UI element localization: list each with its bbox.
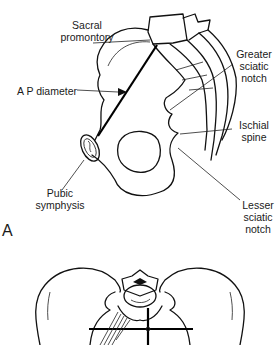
label-sacral-promontory: Sacral promontory — [52, 19, 122, 43]
label-line: promontory — [52, 31, 122, 43]
label-line: Pubic — [30, 187, 90, 199]
label-line: notch — [236, 223, 280, 235]
label-line: notch — [228, 72, 280, 84]
label-greater-sciatic-notch: Greater sciatic notch — [228, 48, 280, 84]
label-line: sciatic — [236, 211, 280, 223]
label-line: Sacral — [52, 19, 122, 31]
label-ap-diameter: A P diameter — [0, 85, 77, 97]
label-line: Ischial — [232, 119, 276, 131]
label-lesser-sciatic-notch: Lesser sciatic notch — [236, 199, 280, 235]
label-line: spine — [232, 131, 276, 143]
pelvis-superior-diagram — [36, 268, 245, 345]
label-line: Lesser — [236, 199, 280, 211]
label-line: Greater — [228, 48, 280, 60]
panel-letter-a: A — [2, 222, 13, 240]
label-ischial-spine: Ischial spine — [232, 119, 276, 143]
label-line: symphysis — [30, 199, 90, 211]
label-pubic-symphysis: Pubic symphysis — [30, 187, 90, 211]
label-line: sciatic — [228, 60, 280, 72]
